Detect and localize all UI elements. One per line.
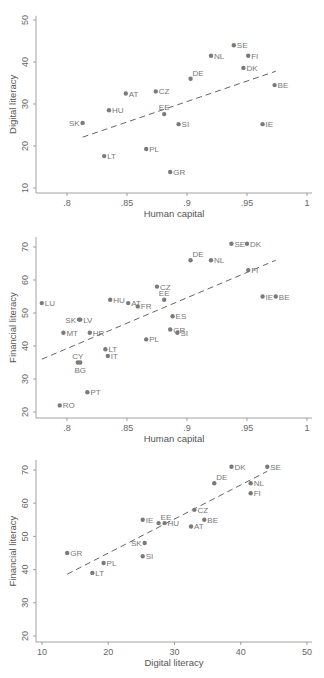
point-label: FI [251,52,258,61]
data-point-hu [107,108,111,112]
point-label: EE [159,103,170,112]
data-point-lv [78,317,82,321]
point-label: FR [141,302,152,311]
point-label: LV [83,316,93,325]
point-label: SK [131,539,142,548]
data-point-be [272,83,276,87]
data-point-se [229,242,233,246]
y-tick-label: 50 [20,15,30,25]
figure: 1020304050.8.85.9.951Human capitalDigita… [0,0,324,678]
point-label: NL [214,256,225,265]
data-point-fi [248,491,252,495]
point-label: CY [72,352,84,361]
data-point-ie [260,294,264,298]
point-label: EE [159,289,170,298]
data-point-si [175,331,179,335]
point-label: ES [176,312,187,321]
point-label: SE [237,41,248,50]
scatter-human-capital-vs-financial-literacy: 203040506070.8.85.9.951Human capitalFina… [7,237,312,444]
point-label: HR [93,329,105,338]
data-point-pl [101,561,105,565]
y-tick-label: 30 [20,598,30,608]
point-label: SE [234,240,245,249]
point-label: PT [90,388,100,397]
y-tick-label: 70 [20,242,30,252]
point-label: GR [173,168,185,177]
y-tick-label: 10 [20,183,30,193]
data-point-dk [241,66,245,70]
y-tick-label: 60 [20,275,30,285]
point-label: GR [70,549,82,558]
y-tick-label: 30 [20,374,30,384]
data-point-hr [88,331,92,335]
x-axis-label: Human capital [144,433,205,444]
data-point-be [274,294,278,298]
point-label: RO [63,401,75,410]
point-label: CZ [159,87,170,96]
point-label: BE [207,516,218,525]
data-point-lt [103,347,107,351]
data-point-hu [162,521,166,525]
point-label: AT [194,522,204,531]
point-label: PL [149,145,159,154]
x-tick-label: 30 [169,647,179,657]
data-point-ie [141,518,145,522]
data-point-lt [102,154,106,158]
data-point-at [189,524,193,528]
point-label: MT [66,329,78,338]
point-label: SI [146,552,154,561]
point-label: DK [234,463,246,472]
data-point-it [106,354,110,358]
x-tick-label: .85 [121,198,134,208]
x-axis-label: Human capital [144,208,205,219]
y-tick-label: 40 [20,57,30,67]
x-tick-label: .85 [121,423,134,433]
data-point-sk [142,541,146,545]
point-label: LU [45,299,55,308]
point-label: FI [251,266,258,275]
data-point-lt [90,571,94,575]
y-tick-label: 40 [20,565,30,575]
data-point-ro [58,403,62,407]
scatter-digital-literacy-vs-financial-literacy: 2030405060701020304050Digital literacyFi… [7,460,312,668]
data-point-ee [162,112,166,116]
data-point-nl [209,258,213,262]
data-point-si [176,122,180,126]
point-label: PL [107,559,117,568]
data-point-sk [80,121,84,125]
data-point-gr [168,327,172,331]
data-point-dk [245,242,249,246]
data-point-se [265,464,269,468]
data-point-nl [248,481,252,485]
data-point-pt [85,390,89,394]
data-point-nl [209,54,213,58]
point-label: NL [254,479,265,488]
point-label: NL [214,52,225,61]
point-label: SI [180,329,188,338]
data-point-gr [168,170,172,174]
x-tick-label: 1 [304,198,309,208]
point-label: PL [149,335,159,344]
point-label: IT [111,352,118,361]
y-axis-label: Digital literacy [7,75,18,134]
x-tick-label: 50 [302,647,312,657]
x-tick-label: .8 [63,198,71,208]
x-tick-label: .9 [183,198,191,208]
x-tick-label: .95 [241,198,254,208]
x-tick-label: 40 [236,647,246,657]
data-point-cz [192,508,196,512]
y-tick-label: 20 [20,407,30,417]
y-axis-label: Financial literacy [7,292,18,363]
y-tick-label: 30 [20,99,30,109]
scatter-human-capital-vs-digital-literacy: 1020304050.8.85.9.951Human capitalDigita… [7,15,312,219]
data-point-ee [162,298,166,302]
fitted-trend-line [83,71,276,137]
point-label: IE [266,120,274,129]
data-point-es [170,314,174,318]
x-tick-label: 1 [304,423,309,433]
data-point-at [124,91,128,95]
point-label: DE [216,473,227,482]
x-tick-label: .95 [241,423,254,433]
data-point-mt [61,331,65,335]
point-label: IE [146,516,154,525]
